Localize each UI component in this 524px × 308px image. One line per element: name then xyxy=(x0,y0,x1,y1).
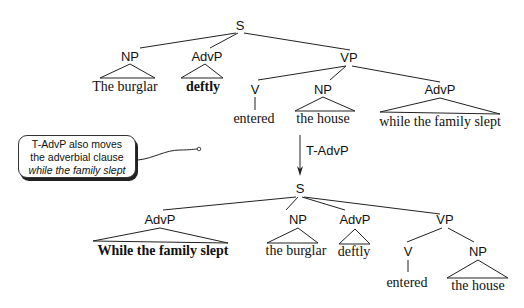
callout-connector xyxy=(138,149,198,160)
callout-line-1: T-AdvP also moves xyxy=(19,138,135,151)
triangle xyxy=(447,260,508,278)
bottom-vp-node: VP xyxy=(436,212,453,227)
callout-line-2: the adverbial clause xyxy=(19,151,135,164)
edge xyxy=(352,66,440,82)
bottom-advp-node: AdvP xyxy=(144,212,175,227)
edge xyxy=(286,197,298,210)
top-vp-advp-node: AdvP xyxy=(424,82,455,97)
triangle xyxy=(181,64,223,78)
bottom-np-text: the burglar xyxy=(266,243,327,258)
bottom-vp-np-node: NP xyxy=(469,244,487,259)
triangle xyxy=(339,229,370,244)
callout-line-3: while the family slept xyxy=(19,164,135,177)
edge xyxy=(244,33,350,50)
edge xyxy=(140,33,236,48)
bottom-advp-text: While the family slept xyxy=(97,243,228,258)
triangle xyxy=(93,228,228,243)
top-vp-np-text: the house xyxy=(296,111,349,126)
edge xyxy=(304,197,440,214)
top-np-node: NP xyxy=(121,49,139,64)
bottom-np-node: NP xyxy=(289,212,307,227)
connector-dot xyxy=(197,147,201,151)
top-v-text: entered xyxy=(233,111,274,126)
top-vp-np-node: NP xyxy=(314,82,332,97)
bottom-advp2-text: deftly xyxy=(338,244,371,259)
callout-box: T-AdvP also moves the adverbial clause w… xyxy=(18,135,136,178)
top-vp-node: VP xyxy=(340,50,357,65)
top-advp-text: deftly xyxy=(186,79,220,94)
bottom-s-node: S xyxy=(296,181,305,196)
triangle xyxy=(380,98,500,114)
bottom-v-node: V xyxy=(404,244,413,259)
top-s-node: S xyxy=(236,18,245,33)
transformation-label: T-AdvP xyxy=(306,143,349,158)
edge xyxy=(163,197,296,210)
top-np-text: The burglar xyxy=(92,79,158,94)
bottom-vp-np-text: the house xyxy=(451,278,504,293)
edge xyxy=(448,228,474,242)
top-v-node: V xyxy=(251,82,260,97)
top-advp-node: AdvP xyxy=(191,49,222,64)
bottom-advp2-node: AdvP xyxy=(339,212,370,227)
triangle xyxy=(267,228,318,243)
top-vp-advp-text: while the family slept xyxy=(379,114,501,129)
edge xyxy=(407,228,442,242)
triangle xyxy=(295,97,355,111)
triangle xyxy=(100,64,155,78)
bottom-v-text: entered xyxy=(386,275,427,290)
